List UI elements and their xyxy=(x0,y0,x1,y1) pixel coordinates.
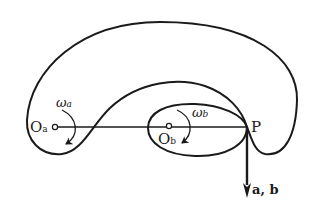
label-vector-ab: a, b xyxy=(252,183,279,196)
vector-ab-arrowhead-icon xyxy=(243,183,251,198)
label-ob: Ob xyxy=(158,132,176,147)
label-omega-b: ωb xyxy=(192,106,208,119)
pivot-ob-icon xyxy=(166,123,171,128)
pivot-oa-icon xyxy=(52,124,57,129)
label-oa: Oa xyxy=(30,120,48,135)
label-p: P xyxy=(251,120,261,135)
label-omega-a: ωa xyxy=(56,96,72,109)
